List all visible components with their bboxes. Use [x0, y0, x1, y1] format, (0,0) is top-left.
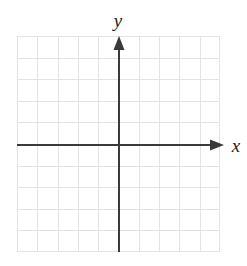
x-axis-label: x — [231, 135, 241, 156]
coordinate-plane-canvas: x y — [0, 0, 247, 266]
coordinate-plane-figure: x y — [0, 0, 247, 266]
y-axis-label: y — [112, 10, 123, 31]
figure-background — [0, 0, 247, 266]
